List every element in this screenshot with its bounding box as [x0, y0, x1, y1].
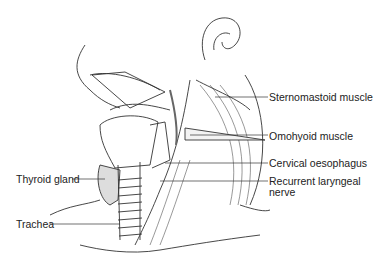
label-trachea: Trachea: [16, 219, 54, 230]
label-sternomastoid-muscle: Sternomastoid muscle: [269, 92, 373, 103]
label-cervical-oesophagus: Cervical oesophagus: [269, 158, 367, 169]
label-thyroid-gland: Thyroid gland: [16, 174, 80, 185]
label-recurrent-laryngeal-nerve: Recurrent laryngeal nerve: [269, 176, 379, 198]
label-omohyoid-muscle: Omohyoid muscle: [269, 131, 353, 142]
